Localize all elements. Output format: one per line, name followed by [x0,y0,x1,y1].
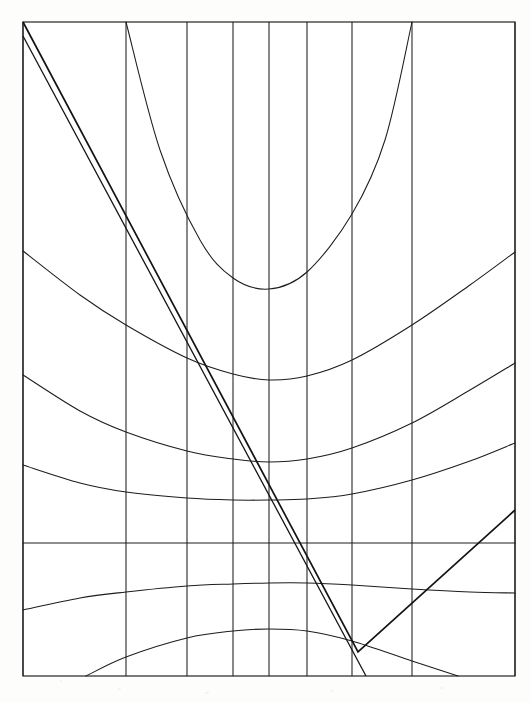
figure-canvas [0,0,531,702]
figure-root [0,0,531,702]
